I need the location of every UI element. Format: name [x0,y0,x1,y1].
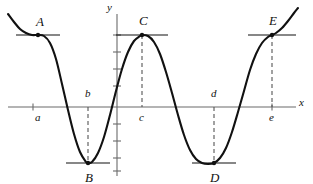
x-value-label-b: b [85,88,91,99]
point-label-c: C [139,14,148,27]
x-value-label-e: e [269,112,274,123]
x-value-label-d: d [211,88,217,99]
critical-point-markers [36,33,274,165]
graph-figure: x y A B C D E a b c d e [0,0,313,184]
point-marker-a [36,33,40,37]
point-label-a: A [36,15,44,28]
point-marker-c [140,33,144,37]
function-curve [8,8,298,164]
dashed-guide-lines [88,35,272,163]
point-marker-b [86,161,90,165]
point-marker-e [270,33,274,37]
point-label-b: B [85,171,93,184]
x-axis-label: x [299,97,304,108]
x-value-label-a: a [35,112,41,123]
tangent-lines [16,35,296,163]
x-value-label-c: c [139,112,144,123]
point-label-e: E [269,14,277,27]
curve-path [8,8,298,164]
point-label-d: D [210,171,219,184]
point-marker-d [212,161,216,165]
graph-canvas [0,0,313,184]
y-axis-label: y [107,2,112,13]
